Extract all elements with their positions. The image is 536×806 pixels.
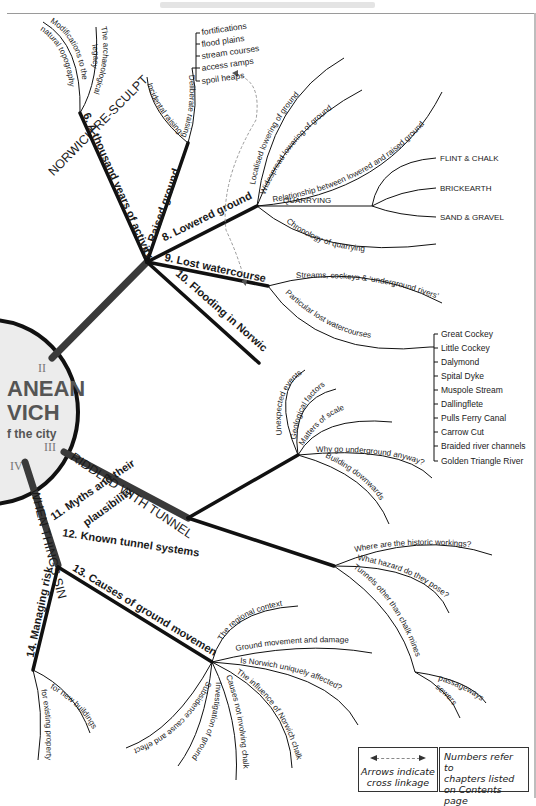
topic-chronology: Chronology of quarrying <box>285 217 366 254</box>
topic-relationship: Relationship between lowered and raised … <box>272 120 426 204</box>
topic-existing-property: for existing property <box>39 688 53 760</box>
branch-flint <box>372 158 436 206</box>
chapter-6-label: 6. A thousand years of activity <box>81 111 156 261</box>
legend-arrows-line1: Arrows indicate <box>359 766 437 777</box>
quarry-type: FLINT & CHALK <box>440 154 499 163</box>
central-hub: II ANEAN VICH f the city III IV <box>0 320 85 504</box>
watercourse-item: Dalymond <box>441 357 480 367</box>
topic-historic-workings: Where are the historic workings? <box>354 538 473 554</box>
raising-items-list: fortifications flood plains stream cours… <box>201 21 260 86</box>
raising-item: spoil heaps <box>201 70 245 86</box>
topic-new-buildings: for new buildings <box>49 682 99 730</box>
double-arrow-icon <box>370 754 426 762</box>
watercourse-item: Golden Triangle River <box>441 456 523 466</box>
topic-streams-cockeys: Streams, cockeys & ‘underground rivers’ <box>296 271 440 301</box>
chapter-13-label: 13. Causes of ground movement <box>0 0 220 658</box>
roman-numeral-iii: III <box>44 440 56 454</box>
branch-section-ii <box>52 262 147 358</box>
branch-existing-property <box>33 670 41 760</box>
topic-not-chalk: Causes not involving chalk <box>224 674 250 770</box>
topic-building-downwards: Building downwards <box>324 451 386 502</box>
hub-title-line2: VICH <box>7 400 60 425</box>
topic-regional-context: The regional context <box>216 599 284 642</box>
topic-chalk-influence: The influence of Norwich chalk <box>235 667 304 761</box>
roman-numeral-iv: IV <box>10 459 23 473</box>
watercourse-item: Pulls Ferry Canal <box>441 413 506 423</box>
legend-numbers-line2: chapters listed <box>444 773 524 784</box>
topic-ground-movement-damage: Ground movement and damage <box>235 635 350 653</box>
branch-chapter-13 <box>58 567 212 662</box>
branch-chronology <box>257 206 436 248</box>
watercourse-item: Spital Dyke <box>441 371 484 381</box>
topic-particular-watercourses: Particular lost watercourses <box>284 288 372 340</box>
bracket-watercourses <box>430 334 438 461</box>
watercourse-item: Carrow Cut <box>441 427 485 437</box>
section-ii-label: NORWICH RE-SCULPTED <box>0 0 151 179</box>
legend-arrows-line2: cross linkage <box>359 777 437 788</box>
branch-chapter-12 <box>188 518 334 566</box>
branch-brickearth <box>372 188 436 206</box>
topic-deliberate-raising: Deliberate raising <box>180 75 197 139</box>
hub-subtitle: f the city <box>7 427 57 441</box>
watercourse-list: Great Cockey Little Cockey Dalymond Spit… <box>441 329 526 466</box>
legend-numbers-line3: on Contents page <box>444 784 524 806</box>
watercourse-item: Dallingflete <box>441 399 483 409</box>
legend-numbers-line1: Numbers refer to <box>444 751 524 773</box>
hub-title-line1: ANEAN <box>7 376 85 401</box>
topic-incidental-raising: Incidental raising <box>145 82 184 136</box>
roman-numeral-ii: II <box>38 361 46 375</box>
watercourse-item: Little Cockey <box>441 343 490 353</box>
legend-crosslink: Arrows indicate cross linkage <box>358 747 438 792</box>
branch-chapter-11 <box>188 455 298 518</box>
topic-quarrying: QUARRYING <box>283 196 331 205</box>
branch-sand <box>372 206 436 217</box>
watercourse-item: Muspole Stream <box>441 385 503 395</box>
legend-chapter-numbers: Numbers refer to chapters listed on Cont… <box>439 747 529 792</box>
quarry-type: BRICKEARTH <box>440 184 492 193</box>
topic-archaeological-line2: legacy <box>90 43 100 69</box>
chapter-7-label: 7. Raised ground <box>141 167 181 255</box>
watercourse-item: Braided river channels <box>441 441 526 451</box>
watercourse-item: Great Cockey <box>441 329 494 339</box>
quarry-type: SAND & GRAVEL <box>440 213 504 222</box>
